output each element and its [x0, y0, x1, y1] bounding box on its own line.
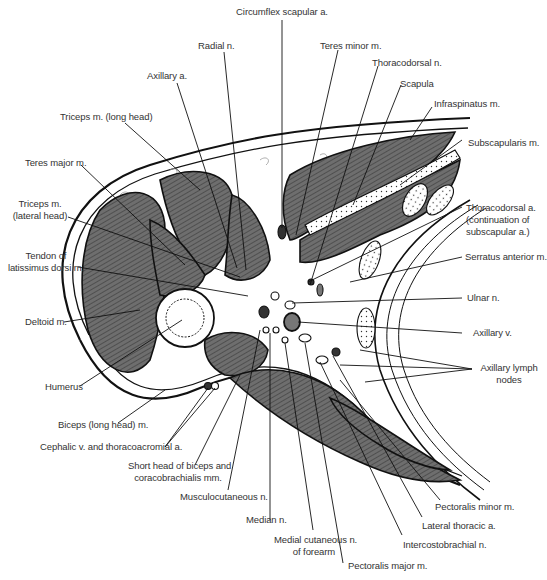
label-line: Triceps m. [10, 198, 70, 210]
label-pectoralis-major: Pectoralis major m. [348, 560, 427, 572]
label-ulnar-nerve: Ulnar n. [467, 292, 499, 304]
label-circumflex-scapular-artery: Circumflex scapular a. [232, 6, 332, 18]
label-axillary-lymph-nodes: Axillary lymph nodes [474, 362, 544, 386]
label-short-head-biceps: Short head of biceps and coracobrachiali… [128, 460, 228, 484]
teres-major [225, 195, 270, 280]
label-line: of forearm [274, 546, 354, 558]
label-line: Tendon of [6, 250, 86, 262]
label-line: Medial cutaneous n. [274, 534, 354, 546]
label-line: Short head of biceps and [128, 460, 228, 472]
label-line: Axillary lymph [474, 362, 544, 374]
label-teres-minor: Teres minor m. [320, 40, 381, 52]
label-axillary-artery: Axillary a. [147, 70, 187, 82]
label-humerus: Humerus [45, 381, 83, 393]
label-line: nodes [474, 374, 544, 386]
label-line: latissimus dorsi m. [6, 262, 86, 274]
label-intercostobrachial-nerve: Intercostobrachial n. [403, 539, 486, 551]
label-infraspinatus: Infraspinatus m. [434, 98, 500, 110]
label-thoracodorsal-artery: Thoracodorsal a. (continuation of subsca… [466, 202, 536, 238]
label-lateral-thoracic-artery: Lateral thoracic a. [422, 520, 496, 532]
label-radial-nerve: Radial n. [198, 40, 235, 52]
label-cephalic-vein: Cephalic v. and thoracoacromial a. [40, 441, 182, 453]
label-thoracodorsal-nerve: Thoracodorsal n. [372, 57, 442, 69]
label-teres-major: Teres major m. [25, 157, 86, 169]
label-scapula: Scapula [400, 78, 434, 90]
label-deltoid: Deltoid m. [25, 316, 67, 328]
label-triceps-long-head: Triceps m. (long head) [60, 111, 153, 123]
label-tendon-latissimus-dorsi: Tendon of latissimus dorsi m. [6, 250, 86, 274]
humerus-bone [156, 289, 214, 347]
label-subscapularis: Subscapularis m. [468, 137, 539, 149]
label-triceps-lateral-head: Triceps m. (lateral head) [10, 198, 70, 222]
label-line: Thoracodorsal a. [466, 202, 536, 214]
label-biceps-long-head: Biceps (long head) m. [58, 419, 148, 431]
label-axillary-vein: Axillary v. [473, 327, 512, 339]
label-line: subscapular a.) [466, 226, 536, 238]
label-line: (continuation of [466, 214, 536, 226]
label-serratus-anterior: Serratus anterior m. [465, 251, 547, 263]
label-median-nerve: Median n. [246, 514, 287, 526]
label-medial-cutaneous-nerve: Medial cutaneous n. of forearm [274, 534, 354, 558]
label-pectoralis-minor: Pectoralis minor m. [435, 501, 514, 513]
label-line: (lateral head) [10, 210, 70, 222]
label-line: coracobrachialis mm. [128, 472, 228, 484]
label-musculocutaneous-nerve: Musculocutaneous n. [180, 491, 268, 503]
deltoid-muscle [82, 193, 166, 373]
